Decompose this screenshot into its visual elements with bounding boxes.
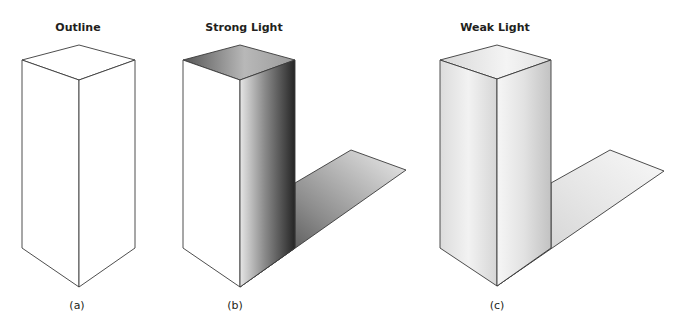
panel-c-title: Weak Light <box>460 21 530 34</box>
weak-left-face <box>440 60 497 286</box>
outline-right-face <box>79 60 135 287</box>
panel-a-title: Outline <box>55 21 100 34</box>
weak-right-face <box>497 60 551 286</box>
figure-canvas <box>0 0 684 329</box>
weak-light-prism <box>440 45 664 286</box>
strong-right-face <box>240 60 295 287</box>
outline-left-face <box>22 60 79 287</box>
strong-left-face <box>183 60 240 287</box>
outline-prism <box>22 45 135 287</box>
panel-c-caption: (c) <box>490 299 505 312</box>
panel-a-caption: (a) <box>69 299 84 312</box>
panel-b-caption: (b) <box>227 299 243 312</box>
strong-light-prism <box>183 45 406 287</box>
panel-b-title: Strong Light <box>205 21 282 34</box>
